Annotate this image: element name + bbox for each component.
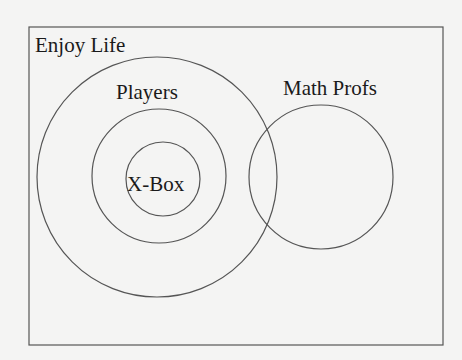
math-profs-circle (249, 105, 393, 249)
math-profs-label: Math Profs (283, 76, 377, 100)
players-label: Players (116, 80, 178, 104)
venn-diagram: Enjoy Life Players X-Box Math Profs (0, 0, 462, 360)
universe-label: Enjoy Life (35, 33, 125, 57)
xbox-label: X-Box (127, 172, 185, 196)
universe-rectangle (29, 27, 443, 345)
